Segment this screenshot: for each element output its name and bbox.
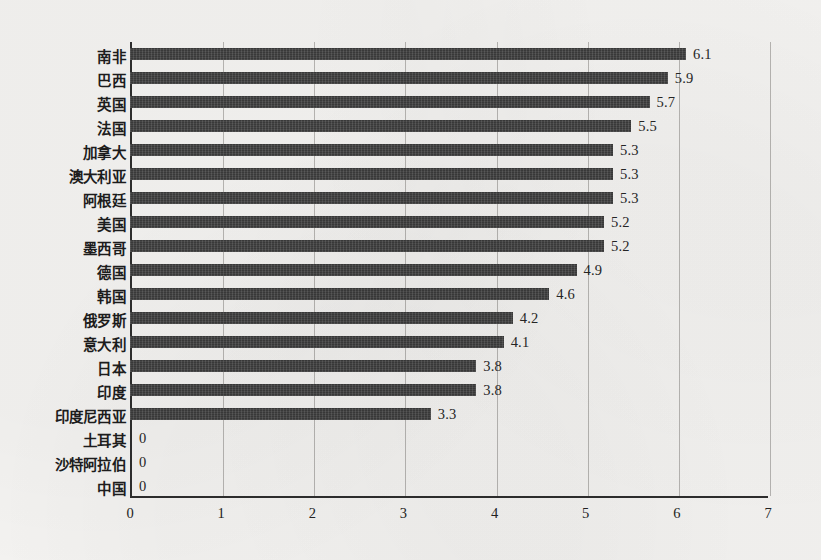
category-label: 德国 xyxy=(0,261,126,282)
bar-row: 5.3 xyxy=(130,144,821,156)
category-label: 美国 xyxy=(0,213,126,234)
bar xyxy=(130,192,613,204)
x-tick-label: 5 xyxy=(582,505,589,522)
category-label: 澳大利亚 xyxy=(0,165,126,186)
category-label: 沙特阿拉伯 xyxy=(0,453,126,474)
category-label: 墨西哥 xyxy=(0,237,126,258)
category-label: 土耳其 xyxy=(0,429,126,450)
bar-value-label: 6.1 xyxy=(693,46,712,63)
category-label: 日本 xyxy=(0,357,126,378)
bar-row: 4.6 xyxy=(130,288,821,300)
bar-value-label: 0 xyxy=(139,430,146,447)
x-tick-label: 2 xyxy=(309,505,316,522)
bar-row: 4.9 xyxy=(130,264,821,276)
bar xyxy=(130,312,513,324)
bar-row: 6.1 xyxy=(130,48,821,60)
bar xyxy=(130,96,650,108)
bar xyxy=(130,408,431,420)
bar-value-label: 3.8 xyxy=(483,382,502,399)
bar xyxy=(130,144,613,156)
bar xyxy=(130,240,604,252)
bar-row: 4.2 xyxy=(130,312,821,324)
bar xyxy=(130,168,613,180)
x-tick-label: 1 xyxy=(218,505,225,522)
category-label: 巴西 xyxy=(0,69,126,90)
bar xyxy=(130,48,686,60)
bar-value-label: 5.2 xyxy=(611,238,630,255)
bar-value-label: 5.9 xyxy=(675,70,694,87)
bar-value-label: 5.2 xyxy=(611,214,630,231)
bar-value-label: 5.5 xyxy=(638,118,657,135)
bar-row: 3.8 xyxy=(130,360,821,372)
bar-value-label: 3.3 xyxy=(438,406,457,423)
bar-value-label: 4.6 xyxy=(556,286,575,303)
bar-row: 5.9 xyxy=(130,72,821,84)
bar xyxy=(130,264,577,276)
category-label: 英国 xyxy=(0,93,126,114)
bar xyxy=(130,288,549,300)
bar-value-label: 4.1 xyxy=(511,334,530,351)
bar-row: 4.1 xyxy=(130,336,821,348)
bar-series: 6.15.95.75.55.35.35.35.25.24.94.64.24.13… xyxy=(130,42,821,498)
category-label: 南非 xyxy=(0,45,126,66)
bar-value-label: 5.7 xyxy=(657,94,676,111)
bar-row: 3.8 xyxy=(130,384,821,396)
bar-row: 0 xyxy=(130,456,821,468)
category-label: 韩国 xyxy=(0,285,126,306)
x-tick-label: 0 xyxy=(126,505,133,522)
x-tick-label: 7 xyxy=(764,505,771,522)
category-label: 俄罗斯 xyxy=(0,309,126,330)
bar-row: 0 xyxy=(130,480,821,492)
bar-value-label: 0 xyxy=(139,454,146,471)
x-tick-label: 6 xyxy=(673,505,680,522)
bar-value-label: 0 xyxy=(139,478,146,495)
bar-row: 5.3 xyxy=(130,168,821,180)
bar xyxy=(130,216,604,228)
category-label: 法国 xyxy=(0,117,126,138)
bar-row: 5.7 xyxy=(130,96,821,108)
bar-row: 5.2 xyxy=(130,240,821,252)
category-label: 中国 xyxy=(0,477,126,498)
bar-value-label: 5.3 xyxy=(620,166,639,183)
category-axis-labels: 南非巴西英国法国加拿大澳大利亚阿根廷美国墨西哥德国韩国俄罗斯意大利日本印度印度尼… xyxy=(0,42,126,498)
bar xyxy=(130,336,504,348)
bar-value-label: 4.9 xyxy=(584,262,603,279)
bar xyxy=(130,120,631,132)
value-axis-tick-labels: 01234567 xyxy=(130,505,768,529)
bar-value-label: 4.2 xyxy=(520,310,539,327)
bar-row: 5.5 xyxy=(130,120,821,132)
x-tick-label: 4 xyxy=(491,505,498,522)
bar-value-label: 3.8 xyxy=(483,358,502,375)
category-label: 阿根廷 xyxy=(0,189,126,210)
category-label: 加拿大 xyxy=(0,141,126,162)
bar-value-label: 5.3 xyxy=(620,142,639,159)
bar xyxy=(130,72,668,84)
bar-chart-figure: 南非巴西英国法国加拿大澳大利亚阿根廷美国墨西哥德国韩国俄罗斯意大利日本印度印度尼… xyxy=(0,0,821,560)
bar-row: 0 xyxy=(130,432,821,444)
bar xyxy=(130,360,476,372)
bar-row: 3.3 xyxy=(130,408,821,420)
category-label: 意大利 xyxy=(0,333,126,354)
bar-row: 5.2 xyxy=(130,216,821,228)
bar-row: 5.3 xyxy=(130,192,821,204)
bar xyxy=(130,384,476,396)
x-tick-label: 3 xyxy=(400,505,407,522)
category-label: 印度 xyxy=(0,381,126,402)
bar-value-label: 5.3 xyxy=(620,190,639,207)
category-label: 印度尼西亚 xyxy=(0,405,126,426)
